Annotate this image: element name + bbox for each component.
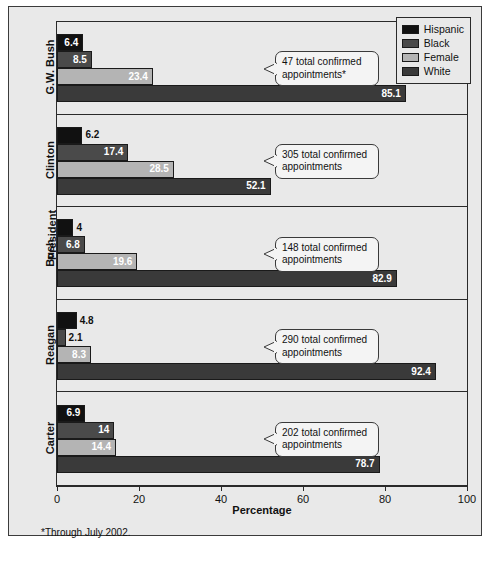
bar-hispanic-bush: 4	[57, 219, 73, 236]
footnote: *Through July 2002.	[41, 527, 131, 538]
legend-swatch-black	[402, 39, 419, 48]
bar-hispanic-g-w-bush: 6.4	[57, 34, 83, 51]
callout-reagan: 290 total confirmed appointments	[275, 329, 379, 364]
bar-white-clinton: 52.1	[57, 178, 271, 195]
legend-swatch-female	[402, 53, 419, 62]
callout-pointer-icon	[263, 431, 277, 447]
x-tick	[467, 486, 468, 491]
legend-label: White	[424, 66, 451, 77]
legend-item-black: Black	[402, 37, 464, 50]
callout-carter: 202 total confirmed appointments	[275, 422, 379, 457]
callout-text: 47 total confirmed appointments*	[282, 56, 362, 80]
bar-value-label: 23.4	[128, 72, 147, 82]
bar-black-carter: 14	[57, 422, 114, 439]
bar-female-g-w-bush: 23.4	[57, 68, 153, 85]
callout-g-w-bush: 47 total confirmed appointments*	[275, 51, 379, 86]
bar-black-clinton: 17.4	[57, 144, 128, 161]
bar-value-label: 4	[76, 223, 82, 233]
bar-white-g-w-bush: 85.1	[57, 85, 406, 102]
bar-group-bush: 46.819.682.9	[57, 207, 467, 300]
bar-value-label: 82.9	[372, 274, 391, 284]
bar-value-label: 6.8	[66, 240, 80, 250]
bar-value-label: 6.2	[85, 130, 99, 140]
bar-value-label: 14	[98, 425, 109, 435]
x-tick	[57, 486, 58, 491]
callout-pointer-icon	[263, 153, 277, 169]
bar-female-reagan: 8.3	[57, 346, 91, 363]
bar-group-reagan: 4.82.18.392.4	[57, 300, 467, 393]
callout-pointer-icon	[263, 246, 277, 262]
callout-text: 305 total confirmed appointments	[282, 149, 367, 173]
x-axis: 020406080100	[56, 486, 468, 487]
bar-black-bush: 6.8	[57, 236, 85, 253]
bar-value-label: 78.7	[355, 459, 374, 469]
bar-group-carter: 6.91414.478.7	[57, 392, 467, 485]
legend-item-white: White	[402, 65, 464, 78]
chart-figure: President G.W. Bush6.48.523.485.147 tota…	[0, 0, 490, 561]
callout-bush: 148 total confirmed appointments	[275, 237, 379, 272]
bar-value-label: 14.4	[92, 442, 111, 452]
bar-value-label: 28.5	[149, 164, 168, 174]
legend-label: Female	[424, 52, 459, 63]
legend-label: Hispanic	[424, 24, 464, 35]
bar-black-g-w-bush: 8.5	[57, 51, 92, 68]
callout-pointer-icon	[263, 339, 277, 355]
group-label-g-w-bush: G.W. Bush	[44, 21, 56, 114]
callout-text: 148 total confirmed appointments	[282, 242, 367, 266]
bar-value-label: 2.1	[69, 333, 83, 343]
group-label-bush: Bush	[44, 206, 56, 299]
group-label-reagan: Reagan	[44, 299, 56, 392]
legend-swatch-white	[402, 67, 419, 76]
x-tick	[385, 486, 386, 491]
bar-hispanic-clinton: 6.2	[57, 127, 82, 144]
bar-female-carter: 14.4	[57, 439, 116, 456]
x-tick	[221, 486, 222, 491]
legend-item-female: Female	[402, 51, 464, 64]
bar-white-bush: 82.9	[57, 270, 397, 287]
group-label-clinton: Clinton	[44, 114, 56, 207]
bar-value-label: 4.8	[80, 316, 94, 326]
x-tick	[303, 486, 304, 491]
legend-swatch-hispanic	[402, 25, 419, 34]
bar-value-label: 6.4	[64, 38, 78, 48]
bar-value-label: 52.1	[246, 181, 265, 191]
callout-text: 202 total confirmed appointments	[282, 427, 367, 451]
legend-label: Black	[424, 38, 450, 49]
legend-item-hispanic: Hispanic	[402, 23, 464, 36]
bar-black-reagan: 2.1	[57, 329, 66, 346]
plot-area: G.W. Bush6.48.523.485.147 total confirme…	[56, 21, 468, 486]
bar-value-label: 17.4	[104, 147, 123, 157]
bar-value-label: 8.5	[73, 55, 87, 65]
bar-female-bush: 19.6	[57, 253, 137, 270]
bar-white-reagan: 92.4	[57, 363, 436, 380]
x-axis-title: Percentage	[56, 504, 468, 516]
bar-white-carter: 78.7	[57, 456, 380, 473]
x-tick	[139, 486, 140, 491]
bar-value-label: 85.1	[381, 89, 400, 99]
callout-clinton: 305 total confirmed appointments	[275, 144, 379, 179]
bar-value-label: 6.9	[66, 408, 80, 418]
bar-female-clinton: 28.5	[57, 161, 174, 178]
callout-pointer-icon	[263, 61, 277, 77]
bar-value-label: 92.4	[411, 367, 430, 377]
bar-hispanic-carter: 6.9	[57, 405, 85, 422]
chart-panel: President G.W. Bush6.48.523.485.147 tota…	[8, 6, 482, 536]
bar-group-clinton: 6.217.428.552.1	[57, 115, 467, 208]
group-label-carter: Carter	[44, 391, 56, 484]
chart-legend: HispanicBlackFemaleWhite	[396, 17, 471, 84]
callout-text: 290 total confirmed appointments	[282, 334, 367, 358]
bar-hispanic-reagan: 4.8	[57, 312, 77, 329]
bar-value-label: 19.6	[113, 257, 132, 267]
bar-value-label: 8.3	[72, 350, 86, 360]
